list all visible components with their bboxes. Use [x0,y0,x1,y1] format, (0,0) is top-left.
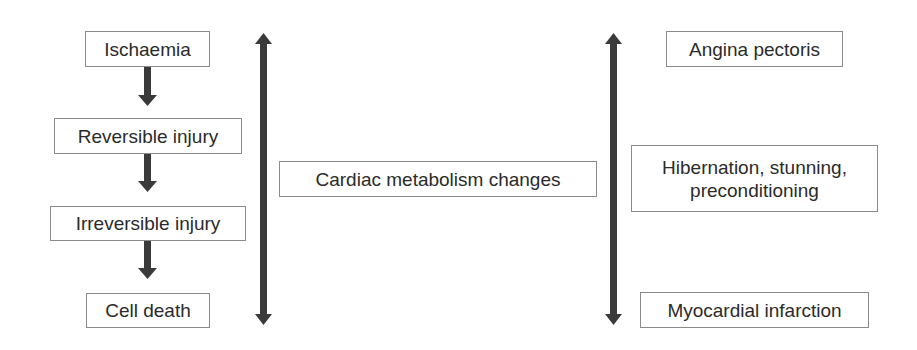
angina-pectoris-label: Angina pectoris [689,38,820,61]
cardiac-metabolism-label: Cardiac metabolism changes [315,168,560,191]
irreversible-injury-label: Irreversible injury [76,212,221,235]
hibernation-box: Hibernation, stunning, preconditioning [631,145,878,212]
reversible-injury-box: Reversible injury [54,118,242,154]
ischaemia-box: Ischaemia [85,31,210,67]
cardiac-metabolism-box: Cardiac metabolism changes [279,161,597,197]
down-arrow-icon [138,67,157,106]
angina-pectoris-box: Angina pectoris [666,31,843,67]
myocardial-infarction-box: Myocardial infarction [640,292,869,328]
double-headed-arrow-icon [605,33,622,325]
ischaemia-label: Ischaemia [104,38,191,61]
reversible-injury-label: Reversible injury [78,125,218,148]
irreversible-injury-box: Irreversible injury [50,206,246,241]
down-arrow-icon [138,241,157,279]
myocardial-infarction-label: Myocardial infarction [667,299,841,322]
cell-death-box: Cell death [86,293,210,328]
hibernation-label: Hibernation, stunning, preconditioning [662,156,847,202]
double-headed-arrow-icon [255,33,272,325]
down-arrow-icon [138,154,157,192]
cell-death-label: Cell death [105,299,191,322]
